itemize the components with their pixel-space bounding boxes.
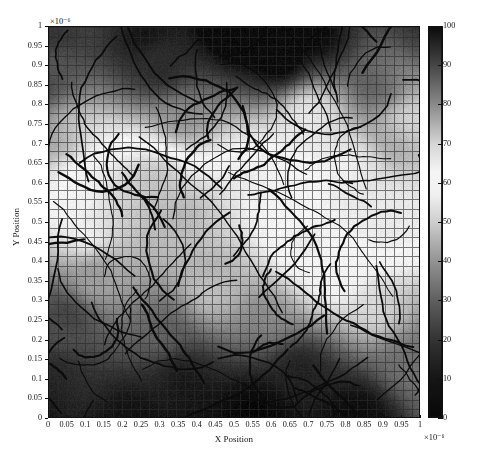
y-tick-label: 0.5 [0, 218, 42, 226]
x-tick-label: 0.1 [80, 421, 90, 429]
fiber-overlay-canvas [49, 27, 420, 418]
y-tick-mark [45, 46, 48, 47]
y-tick-label: 1 [0, 22, 42, 30]
y-tick-label: 0.65 [0, 159, 42, 167]
x-tick-label: 0.75 [320, 421, 334, 429]
x-tick-mark [420, 415, 421, 418]
x-tick-mark [290, 415, 291, 418]
x-tick-label: 0.35 [171, 421, 185, 429]
y-tick-mark [45, 163, 48, 164]
x-tick-label: 0.05 [59, 421, 73, 429]
x-tick-label: 0.55 [245, 421, 259, 429]
y-tick-mark [45, 124, 48, 125]
colorbar-tick-label: 30 [443, 296, 451, 304]
y-tick-mark [45, 359, 48, 360]
y-tick-mark [45, 85, 48, 86]
x-tick-label: 0.7 [303, 421, 313, 429]
y-tick-mark [45, 320, 48, 321]
y-tick-mark [45, 183, 48, 184]
x-tick-mark [85, 415, 86, 418]
y-tick-label: 0.45 [0, 237, 42, 245]
colorbar-tick-label: 90 [443, 61, 451, 69]
y-tick-label: 0.75 [0, 120, 42, 128]
x-tick-label: 0.8 [340, 421, 350, 429]
x-tick-label: 0.9 [378, 421, 388, 429]
plot-area[interactable] [48, 26, 420, 418]
caption-ghost [0, 452, 478, 465]
y-tick-mark [45, 418, 48, 419]
colorbar-tick-label: 20 [443, 335, 451, 343]
y-tick-mark [45, 144, 48, 145]
x-tick-mark [141, 415, 142, 418]
y-tick-mark [45, 261, 48, 262]
x-tick-label: 0.2 [117, 421, 127, 429]
y-axis-title: Y Position [11, 187, 21, 267]
y-tick-label: 0.25 [0, 316, 42, 324]
x-tick-label: 0.5 [229, 421, 239, 429]
x-tick-label: 0.85 [357, 421, 371, 429]
x-tick-mark [234, 415, 235, 418]
x-axis-title: X Position [48, 434, 420, 444]
x-tick-label: 0.6 [266, 421, 276, 429]
colorbar-tick-label: 70 [443, 139, 451, 147]
x-tick-label: 0.95 [394, 421, 408, 429]
colorbar-tick-label: 80 [443, 100, 451, 108]
x-tick-mark [346, 415, 347, 418]
x-tick-mark [215, 415, 216, 418]
x-tick-label: 0.4 [192, 421, 202, 429]
x-tick-label: 1 [418, 421, 422, 429]
x-tick-mark [67, 415, 68, 418]
x-tick-mark [364, 415, 365, 418]
x-tick-label: 0 [46, 421, 50, 429]
x-tick-label: 0.3 [154, 421, 164, 429]
x-tick-mark [327, 415, 328, 418]
y-tick-mark [45, 222, 48, 223]
y-tick-mark [45, 242, 48, 243]
x-tick-mark [48, 415, 49, 418]
x-tick-mark [383, 415, 384, 418]
y-tick-label: 0.55 [0, 198, 42, 206]
y-tick-mark [45, 379, 48, 380]
y-tick-label: 0.1 [0, 375, 42, 383]
y-tick-label: 0.7 [0, 139, 42, 147]
y-axis-exponent: ×10⁻⁶ [50, 16, 70, 26]
x-axis-exponent: ×10⁻⁶ [424, 432, 444, 442]
y-tick-label: 0.3 [0, 296, 42, 304]
y-tick-label: 0.9 [0, 61, 42, 69]
colorbar-tick-label: 100 [443, 22, 455, 30]
y-tick-mark [45, 104, 48, 105]
y-tick-label: 0.95 [0, 41, 42, 49]
y-tick-mark [45, 65, 48, 66]
x-tick-mark [178, 415, 179, 418]
x-tick-label: 0.25 [134, 421, 148, 429]
y-tick-mark [45, 202, 48, 203]
y-tick-label: 0.35 [0, 277, 42, 285]
figure-root: ×10⁻⁶ 00.050.10.150.20.250.30.350.40.450… [0, 0, 478, 465]
y-tick-mark [45, 281, 48, 282]
x-tick-mark [271, 415, 272, 418]
colorbar-tick-label: 0 [443, 414, 447, 422]
x-tick-mark [122, 415, 123, 418]
y-tick-label: 0.05 [0, 394, 42, 402]
y-tick-label: 0 [0, 414, 42, 422]
y-tick-mark [45, 26, 48, 27]
colorbar-tick-label: 10 [443, 375, 451, 383]
y-tick-mark [45, 398, 48, 399]
y-tick-label: 0.6 [0, 179, 42, 187]
x-tick-mark [104, 415, 105, 418]
x-tick-mark [308, 415, 309, 418]
x-tick-label: 0.15 [97, 421, 111, 429]
y-tick-label: 0.8 [0, 100, 42, 108]
x-tick-mark [401, 415, 402, 418]
y-tick-label: 0.2 [0, 335, 42, 343]
x-tick-label: 0.65 [283, 421, 297, 429]
y-tick-mark [45, 300, 48, 301]
x-tick-mark [160, 415, 161, 418]
y-tick-label: 0.15 [0, 355, 42, 363]
y-tick-label: 0.85 [0, 81, 42, 89]
colorbar-tick-label: 60 [443, 179, 451, 187]
x-tick-mark [253, 415, 254, 418]
x-tick-label: 0.45 [208, 421, 222, 429]
x-tick-mark [197, 415, 198, 418]
y-tick-label: 0.4 [0, 257, 42, 265]
